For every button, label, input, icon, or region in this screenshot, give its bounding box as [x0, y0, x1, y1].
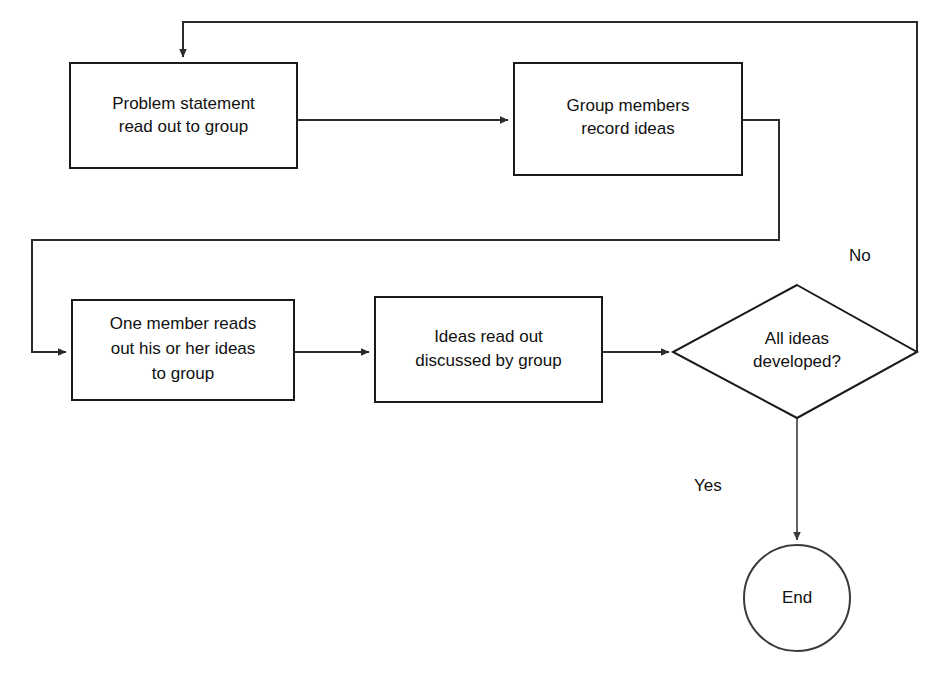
edge-label-yes: Yes: [694, 476, 722, 495]
node-record-ideas[interactable]: Group members record ideas: [514, 63, 742, 175]
node-problem-statement-shape: [70, 63, 297, 168]
node-ideas-discussed[interactable]: Ideas read out discussed by group: [375, 297, 602, 402]
node-one-member-reads-line2: out his or her ideas: [111, 339, 256, 358]
node-all-ideas-developed[interactable]: All ideas developed?: [673, 285, 917, 418]
node-ideas-discussed-line2: discussed by group: [415, 351, 561, 370]
node-record-ideas-line2: record ideas: [581, 119, 675, 138]
node-end-label: End: [782, 588, 812, 607]
node-problem-statement-line1: Problem statement: [112, 94, 255, 113]
node-one-member-reads[interactable]: One member reads out his or her ideas to…: [72, 300, 294, 400]
node-one-member-reads-line1: One member reads: [110, 314, 256, 333]
node-one-member-reads-line3: to group: [152, 364, 214, 383]
node-ideas-discussed-line1: Ideas read out: [434, 327, 543, 346]
flowchart-canvas: Problem statement read out to group Grou…: [0, 0, 934, 695]
flowchart-diagram: Problem statement read out to group Grou…: [0, 0, 934, 695]
node-end[interactable]: End: [744, 545, 850, 651]
node-problem-statement-line2: read out to group: [119, 117, 248, 136]
node-all-ideas-developed-line1: All ideas: [765, 329, 829, 348]
node-record-ideas-line1: Group members: [567, 96, 690, 115]
node-all-ideas-developed-line2: developed?: [753, 352, 841, 371]
node-ideas-discussed-shape: [375, 297, 602, 402]
node-problem-statement[interactable]: Problem statement read out to group: [70, 63, 297, 168]
edge-label-no: No: [849, 246, 871, 265]
